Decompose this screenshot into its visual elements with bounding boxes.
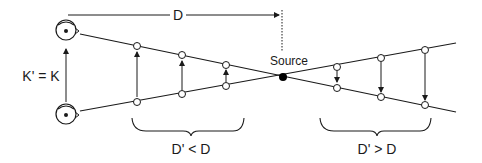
eye-icon [56, 104, 79, 124]
far-brace [320, 118, 431, 136]
source-point [279, 73, 287, 81]
source-label: Source [270, 54, 308, 68]
far-label: D' > D [358, 141, 397, 157]
distance-label: D [173, 7, 183, 23]
near-label: D' < D [172, 141, 211, 157]
near-brace [132, 118, 244, 136]
parallax-diagram: D K' = K [0, 0, 482, 163]
eye-icon [56, 20, 79, 40]
equality-label: K' = K [22, 68, 60, 84]
distance-indicator: D [68, 7, 282, 52]
